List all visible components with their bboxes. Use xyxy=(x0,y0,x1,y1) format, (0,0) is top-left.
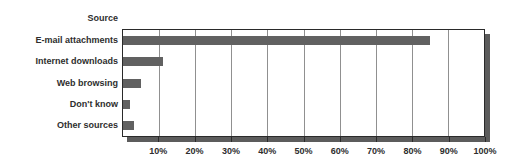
category-axis-title: Source xyxy=(0,13,118,24)
x-tick-mark xyxy=(340,137,341,142)
x-tick-label: 30% xyxy=(214,146,248,157)
bar-internet-downloads xyxy=(123,57,163,66)
bar-web-browsing xyxy=(123,79,141,88)
bar-chart: Source E-mail attachmentsInternet downlo… xyxy=(0,0,525,161)
x-tick-mark xyxy=(304,137,305,142)
gridline xyxy=(448,30,449,136)
plot-area xyxy=(122,29,485,137)
x-tick-label: 50% xyxy=(287,146,321,157)
x-tick-mark xyxy=(376,137,377,142)
gridline xyxy=(376,30,377,136)
gridline xyxy=(267,30,268,136)
category-labels: E-mail attachmentsInternet downloadsWeb … xyxy=(0,30,118,136)
x-tick-mark xyxy=(449,137,450,142)
gridline xyxy=(231,30,232,136)
gridline xyxy=(195,30,196,136)
category-label: Don't know xyxy=(0,99,118,110)
category-label: Internet downloads xyxy=(0,56,118,67)
x-tick-mark xyxy=(158,137,159,142)
bar-other-sources xyxy=(123,121,134,130)
gridline xyxy=(304,30,305,136)
x-tick-label: 80% xyxy=(395,146,429,157)
bar-e-mail-attachments xyxy=(123,36,430,45)
x-tick-mark xyxy=(485,137,486,142)
gridline xyxy=(340,30,341,136)
x-tick-label: 90% xyxy=(432,146,466,157)
gridline xyxy=(412,30,413,136)
category-label: E-mail attachments xyxy=(0,35,118,46)
x-tick-label: 20% xyxy=(178,146,212,157)
category-label: Other sources xyxy=(0,120,118,131)
x-tick-label: 100% xyxy=(468,146,502,157)
bar-don-t-know xyxy=(123,100,130,109)
x-tick-mark xyxy=(195,137,196,142)
x-tick-label: 60% xyxy=(323,146,357,157)
x-tick-label: 40% xyxy=(250,146,284,157)
category-label: Web browsing xyxy=(0,78,118,89)
x-tick-mark xyxy=(412,137,413,142)
x-tick-mark xyxy=(231,137,232,142)
x-tick-mark xyxy=(267,137,268,142)
x-tick-label: 70% xyxy=(359,146,393,157)
x-tick-label: 10% xyxy=(141,146,175,157)
gridline xyxy=(159,30,160,136)
